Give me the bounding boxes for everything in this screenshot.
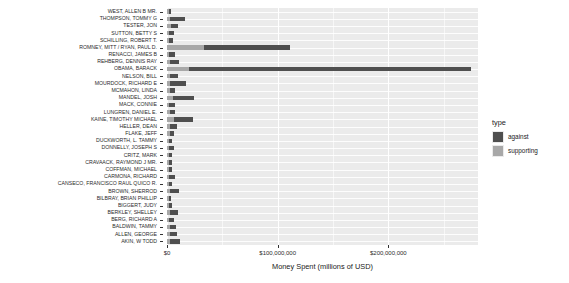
y-axis-tick-label: RENACCI, JAMES B bbox=[109, 52, 157, 57]
y-axis-tick-label: AKIN, W TODD bbox=[121, 239, 157, 244]
bar-row bbox=[167, 110, 478, 114]
y-axis-tick-label: MACK, CONNIE bbox=[119, 102, 157, 107]
y-axis-tick bbox=[160, 55, 163, 56]
bar-row bbox=[167, 24, 478, 28]
bar-row bbox=[167, 182, 478, 186]
legend-label: against bbox=[508, 133, 529, 140]
y-axis-tick-label: HELLER, DEAN bbox=[120, 124, 157, 129]
bar-segment-against bbox=[170, 88, 176, 92]
x-axis-tick bbox=[388, 245, 389, 248]
bar-segment-supporting bbox=[167, 67, 189, 71]
y-axis-tick bbox=[160, 177, 163, 178]
bar-row bbox=[167, 45, 478, 49]
y-axis-tick bbox=[160, 198, 163, 199]
bar-segment-against bbox=[169, 160, 172, 164]
y-axis-tick bbox=[160, 134, 163, 135]
y-axis-tick-label: ALLEN, GEORGE bbox=[115, 232, 157, 237]
plot-panel bbox=[167, 8, 478, 245]
bar-segment-against bbox=[169, 218, 174, 222]
y-axis-tick-label: SUTTON, BETTY S bbox=[111, 31, 157, 36]
y-axis-tick bbox=[160, 234, 163, 235]
bar-segment-against bbox=[170, 239, 181, 243]
bar-row bbox=[167, 175, 478, 179]
bar-segment-against bbox=[170, 74, 179, 78]
bar-row bbox=[167, 103, 478, 107]
bar-segment-against bbox=[169, 9, 171, 13]
bar-segment-against bbox=[169, 182, 173, 186]
y-axis-tick-label: DUCKWORTH, L. TAMMY bbox=[96, 138, 157, 143]
y-axis-tick bbox=[160, 127, 163, 128]
legend-item: supporting bbox=[492, 144, 566, 157]
y-axis-tick bbox=[160, 76, 163, 77]
bar-row bbox=[167, 189, 478, 193]
bar-segment-against bbox=[169, 31, 173, 35]
x-axis-tick-label: $0 bbox=[164, 250, 171, 256]
x-axis-tick-label: $200,000,000 bbox=[370, 250, 407, 256]
bar-row bbox=[167, 203, 478, 207]
y-axis-tick-label: MOURDOCK, RICHARD E bbox=[95, 81, 157, 86]
y-axis-tick-label: SCHILLING, ROBERT T. bbox=[100, 38, 157, 43]
bar-segment-against bbox=[169, 52, 174, 56]
y-axis-tick-label: KAINE, TIMOTHY MICHAEL bbox=[91, 117, 157, 122]
y-axis-tick-label: BALDWIN, TAMMY bbox=[112, 224, 157, 229]
bar-segment-against bbox=[173, 96, 194, 100]
bar-segment-against bbox=[169, 38, 173, 42]
bar-segment-against bbox=[170, 232, 177, 236]
bar-segment-against bbox=[169, 175, 175, 179]
y-axis-tick bbox=[160, 213, 163, 214]
x-axis-title: Money Spent (millions of USD) bbox=[167, 262, 478, 271]
bar-segment-against bbox=[170, 81, 185, 85]
bar-segment-against bbox=[170, 189, 179, 193]
y-axis-tick bbox=[160, 170, 163, 171]
bar-row bbox=[167, 196, 478, 200]
y-axis-tick-label: COFFMAN, MICHAEL bbox=[105, 167, 157, 172]
bar-segment-against bbox=[171, 24, 179, 28]
y-axis-tick bbox=[160, 33, 163, 34]
bar-rows bbox=[167, 8, 478, 245]
legend: type againstsupporting bbox=[492, 118, 566, 158]
bar-row bbox=[167, 31, 478, 35]
bar-segment-against bbox=[170, 131, 174, 135]
y-axis-tick-label: OBAMA, BARACK bbox=[114, 66, 157, 71]
legend-swatch-against bbox=[493, 132, 503, 142]
y-axis-tick-label: CARMONA, RICHARD bbox=[104, 174, 157, 179]
bar-segment-against bbox=[170, 60, 179, 64]
y-axis-tick bbox=[160, 26, 163, 27]
y-axis-tick bbox=[160, 105, 163, 106]
bar-segment-against bbox=[170, 110, 175, 114]
legend-title: type bbox=[492, 118, 566, 127]
y-axis-tick-label: CRAVAACK, RAYMOND J MR. bbox=[85, 160, 157, 165]
bar-segment-against bbox=[169, 196, 172, 200]
x-axis-tick bbox=[167, 245, 168, 248]
y-axis-tick bbox=[160, 241, 163, 242]
legend-items: againstsupporting bbox=[492, 130, 566, 157]
bar-segment-against bbox=[169, 103, 174, 107]
bar-row bbox=[167, 131, 478, 135]
y-axis-tick bbox=[160, 83, 163, 84]
y-axis-tick-label: BERG, RICHARD A bbox=[111, 217, 157, 222]
y-axis-tick-label: THOMPSON, TOMMY G bbox=[100, 16, 157, 21]
y-axis-tick bbox=[160, 91, 163, 92]
bar-segment-against bbox=[170, 124, 177, 128]
bar-row bbox=[167, 146, 478, 150]
y-axis-tick-label: FLAKE, JEFF bbox=[125, 131, 157, 136]
y-axis-tick-label: BIGGERT, JUDY bbox=[118, 203, 157, 208]
y-axis-tick bbox=[160, 141, 163, 142]
bar-row bbox=[167, 96, 478, 100]
bar-segment-against bbox=[169, 167, 173, 171]
bar-row bbox=[167, 225, 478, 229]
y-axis-tick-label: ROMNEY, MITT / RYAN, PAUL D. bbox=[79, 45, 157, 50]
y-axis-tick-label: MCMAHON, LINDA bbox=[111, 88, 157, 93]
y-axis-tick-label: MANDEL, JOSH bbox=[119, 95, 157, 100]
y-axis-tick bbox=[160, 184, 163, 185]
y-axis-tick-label: TESTER, JON bbox=[123, 23, 157, 28]
bar-segment-against bbox=[204, 45, 290, 49]
bar-row bbox=[167, 67, 478, 71]
bar-segment-against bbox=[170, 17, 185, 21]
bar-row bbox=[167, 81, 478, 85]
bar-segment-supporting bbox=[167, 117, 174, 121]
legend-label: supporting bbox=[508, 147, 538, 154]
bar-segment-against bbox=[169, 146, 174, 150]
legend-key bbox=[492, 145, 504, 157]
y-axis-tick-label: DONNELLY, JOSEPH S bbox=[102, 145, 157, 150]
